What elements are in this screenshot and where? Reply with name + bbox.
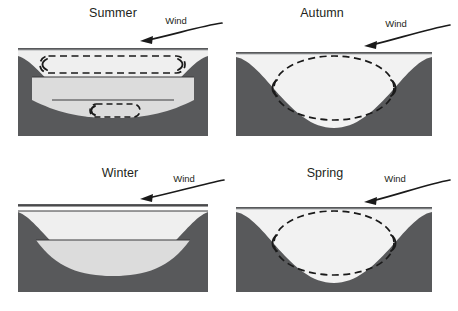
wind-label-winter: Wind xyxy=(173,173,195,184)
seasonal-lake-stratification-figure: Summer Wind Autumn Wind xyxy=(0,0,458,311)
wind-label-spring: Wind xyxy=(384,173,406,184)
wind-label-summer: Wind xyxy=(165,15,187,26)
panel-title-spring: Spring xyxy=(307,166,344,180)
wind-label-autumn: Wind xyxy=(385,18,407,29)
panel-title-summer: Summer xyxy=(89,6,137,20)
panel-title-winter: Winter xyxy=(102,166,139,180)
panel-title-autumn: Autumn xyxy=(300,6,344,20)
ice-cover-winter xyxy=(18,206,208,211)
